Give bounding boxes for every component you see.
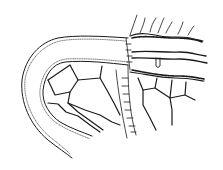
mesenteric-vessels-right	[138, 78, 195, 130]
bowel-segment-right	[130, 34, 207, 81]
mesenteric-vessels-left	[48, 65, 120, 132]
epiploic-appendices	[130, 15, 194, 35]
suture-line	[116, 38, 136, 138]
bowel-loop	[22, 36, 128, 158]
illustration-canvas	[0, 0, 223, 170]
anastomosis-illustration	[0, 0, 223, 170]
